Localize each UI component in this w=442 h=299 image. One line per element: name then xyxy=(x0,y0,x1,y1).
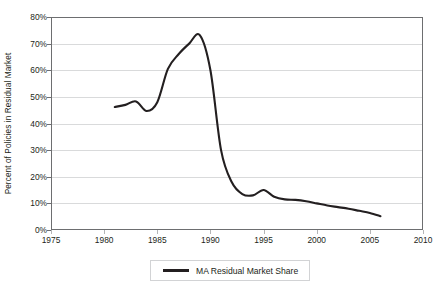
x-tick-label: 2010 xyxy=(403,236,442,244)
x-tick-mark xyxy=(264,230,265,234)
series-layer xyxy=(0,0,442,299)
x-tick-mark xyxy=(370,230,371,234)
chart-figure: Percent of Policies in Residual Market 0… xyxy=(0,0,442,299)
x-tick-label: 2000 xyxy=(297,236,337,244)
x-tick-mark xyxy=(423,230,424,234)
x-tick-mark xyxy=(317,230,318,234)
x-tick-label: 1985 xyxy=(137,236,177,244)
x-tick-mark xyxy=(51,230,52,234)
legend-swatch-icon xyxy=(163,269,189,271)
x-tick-label: 2005 xyxy=(350,236,390,244)
x-tick-label: 1980 xyxy=(84,236,124,244)
x-tick-mark xyxy=(210,230,211,234)
x-tick-label: 1990 xyxy=(190,236,230,244)
chart-legend: MA Residual Market Share xyxy=(150,260,310,281)
x-tick-label: 1995 xyxy=(244,236,284,244)
legend-label: MA Residual Market Share xyxy=(196,266,298,276)
line-ma-residual-market-share xyxy=(115,34,381,216)
x-tick-label: 1975 xyxy=(31,236,71,244)
x-tick-mark xyxy=(157,230,158,234)
x-tick-mark xyxy=(104,230,105,234)
